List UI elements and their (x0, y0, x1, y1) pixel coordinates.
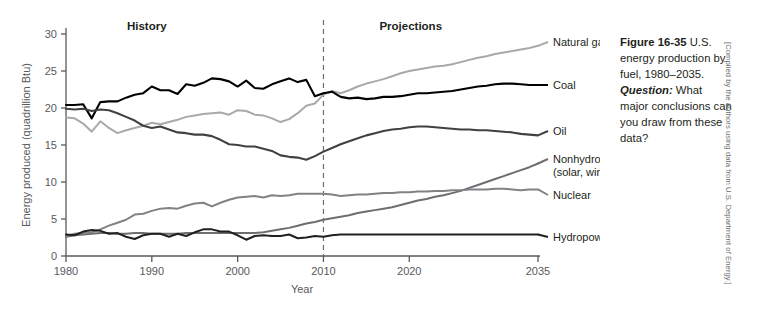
series-leader (538, 235, 548, 237)
series-leader (538, 189, 548, 195)
series-line-nuclear (66, 189, 538, 236)
y-tick-label: 5 (51, 213, 57, 225)
x-tick-label: 1990 (140, 265, 164, 277)
series-leader (538, 42, 548, 46)
series-line-nonhydro-renewables (66, 164, 538, 237)
projections-label: Projections (379, 20, 442, 32)
history-label: History (127, 20, 167, 32)
y-tick-label: 0 (51, 250, 57, 262)
series-leader (538, 159, 548, 164)
x-tick-label: 2035 (526, 265, 550, 277)
caption-question-label: Question: (620, 84, 673, 96)
x-tick-label: 2010 (311, 265, 335, 277)
x-tick-label: 2020 (397, 265, 421, 277)
series-label-nonhydro-renewables: Nonhydro renewables (553, 153, 600, 165)
figure-caption: Figure 16-35 U.S. energy production by f… (620, 34, 732, 146)
series-label-oil: Oil (553, 125, 566, 137)
x-tick-label: 2000 (225, 265, 249, 277)
x-axis-title: Year (291, 283, 314, 295)
series-line-oil (66, 109, 538, 160)
figure-root: 051015202530198019902000201020202035Year… (0, 0, 765, 319)
series-label-coal: Coal (553, 79, 576, 91)
figure-credit: [Compiled by the authors using data from… (719, 42, 733, 274)
y-tick-label: 15 (45, 139, 57, 151)
chart-area: 051015202530198019902000201020202035Year… (0, 0, 600, 319)
y-tick-label: 30 (45, 28, 57, 40)
y-tick-label: 25 (45, 65, 57, 77)
series-leader (538, 131, 548, 135)
series-line-coal (66, 78, 538, 118)
y-axis-title: Energy produced (quadrillion Btu) (20, 63, 32, 227)
series-line-hydropower (66, 229, 538, 239)
series-label-nuclear: Nuclear (553, 189, 591, 201)
series-label-hydropower: Hydropower (553, 231, 600, 243)
y-tick-label: 10 (45, 176, 57, 188)
figure-number: Figure 16-35 (620, 36, 687, 48)
energy-production-line-chart: 051015202530198019902000201020202035Year… (0, 0, 600, 319)
series-line-natural-gas (66, 46, 538, 133)
x-tick-label: 1980 (54, 265, 78, 277)
series-sublabel-nonhydro-renewables: (solar, wind, biomass, geothermal) (553, 166, 600, 178)
y-tick-label: 20 (45, 102, 57, 114)
series-label-natural-gas: Natural gas (553, 36, 600, 48)
